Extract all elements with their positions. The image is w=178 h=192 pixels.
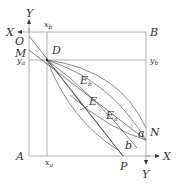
label-axis-X-right: X [162, 150, 172, 163]
label-b: b [125, 139, 132, 152]
label-yb: yb [149, 56, 159, 66]
label-P: P [119, 160, 128, 173]
label-axis-Y-top: Y [26, 7, 35, 20]
label-Ea: Ea [105, 109, 118, 122]
label-xb: xb [44, 20, 53, 30]
label-xa: xa [45, 158, 54, 168]
ray-M-D [29, 50, 146, 140]
label-B: B [149, 26, 158, 39]
geometry-diagram: Y X O M D B A N P X Y Eb E Ea a b xb xa … [0, 0, 178, 192]
label-N: N [149, 126, 160, 139]
y-axis-arrowhead-down-icon [144, 160, 148, 165]
label-axis-Y-bottom: Y [142, 168, 151, 181]
label-axis-X-left: X [5, 26, 15, 39]
curve-upper [47, 60, 146, 128]
label-Eb: Eb [79, 74, 92, 87]
label-a: a [138, 127, 145, 140]
x-axis-arrowhead-icon [17, 30, 22, 34]
label-E: E [88, 95, 97, 108]
label-A: A [15, 150, 24, 163]
point-D-dot [46, 59, 48, 61]
label-D: D [51, 44, 61, 57]
x-axis-arrowhead-right-icon [155, 154, 160, 158]
